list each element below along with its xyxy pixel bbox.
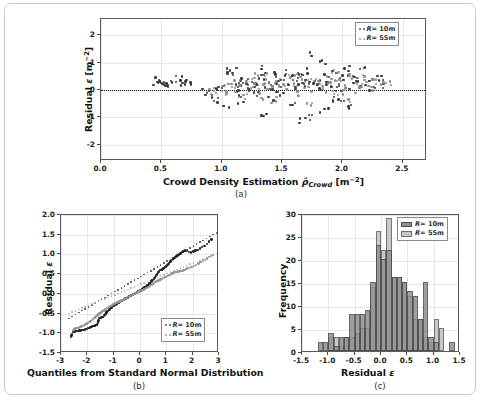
qq-point-r10 bbox=[97, 319, 99, 321]
qq-reference-line-r55 bbox=[143, 282, 145, 284]
y-tick-label: 0.0 bbox=[42, 288, 55, 297]
x-tick-label: -3 bbox=[56, 356, 64, 365]
scatter-point-r10 bbox=[277, 91, 279, 93]
y-tick-label: 1.5 bbox=[42, 229, 55, 238]
scatter-point-r10 bbox=[350, 104, 352, 106]
scatter-point-r55 bbox=[330, 78, 332, 80]
scatter-point-r55 bbox=[233, 79, 235, 81]
scatter-point-r10 bbox=[304, 117, 306, 119]
panel-a-legend-label-r55: = 55m bbox=[371, 34, 395, 44]
scatter-point-r55 bbox=[257, 74, 259, 76]
x-tick-mark bbox=[459, 352, 460, 355]
x-tick-label: -1 bbox=[109, 356, 117, 365]
scatter-point-r10 bbox=[343, 67, 345, 69]
scatter-point-r10 bbox=[242, 82, 244, 84]
qq-point-r10 bbox=[203, 245, 205, 247]
y-tick-label: 2 bbox=[90, 30, 95, 39]
panel-a-legend-item-r10: R = 10m bbox=[359, 25, 395, 35]
scatter-point-r10 bbox=[337, 98, 339, 100]
scatter-point-r55 bbox=[284, 85, 286, 87]
x-tick-label: 1.5 bbox=[452, 356, 465, 365]
scatter-point-r55 bbox=[310, 78, 312, 80]
scatter-point-r10 bbox=[217, 97, 219, 99]
scatter-point-r10 bbox=[342, 79, 344, 81]
scatter-point-r55 bbox=[254, 72, 256, 74]
gridline-horizontal bbox=[101, 63, 425, 64]
histogram-bar-r55 bbox=[439, 328, 444, 351]
qq-reference-line-r10 bbox=[206, 238, 208, 240]
qq-reference-line-r10 bbox=[209, 236, 211, 238]
scatter-point-r55 bbox=[333, 93, 335, 95]
y-tick-mark bbox=[57, 352, 60, 353]
panel-a-caption: (a) bbox=[235, 189, 247, 199]
scatter-point-r10 bbox=[235, 67, 237, 69]
scatter-point-r55 bbox=[268, 81, 270, 83]
scatter-point-r10 bbox=[258, 77, 260, 79]
gridline-horizontal bbox=[61, 235, 217, 236]
scatter-point-r55 bbox=[326, 75, 328, 77]
gridline-vertical bbox=[282, 19, 283, 159]
scatter-point-r10 bbox=[261, 65, 263, 67]
scatter-point-r10 bbox=[359, 68, 361, 70]
scatter-point-r10 bbox=[213, 100, 215, 102]
x-tick-mark bbox=[406, 352, 407, 355]
scatter-point-r55 bbox=[245, 80, 247, 82]
scatter-point-r55 bbox=[310, 104, 312, 106]
scatter-point-r55 bbox=[275, 100, 277, 102]
scatter-point-r55 bbox=[338, 78, 340, 80]
x-tick-mark bbox=[100, 160, 101, 163]
qq-reference-line-r55 bbox=[121, 291, 123, 293]
scatter-point-r10 bbox=[348, 65, 350, 67]
scatter-point-r10 bbox=[201, 88, 203, 90]
scatter-point-r10 bbox=[311, 114, 313, 116]
scatter-point-r10 bbox=[298, 122, 300, 124]
y-tick-mark bbox=[57, 313, 60, 314]
scatter-point-r10 bbox=[175, 81, 177, 83]
qq-point-r10 bbox=[210, 238, 212, 240]
scatter-point-r10 bbox=[355, 80, 357, 82]
y-tick-label: 1 bbox=[90, 57, 95, 66]
qq-reference-line-r55 bbox=[180, 267, 182, 269]
panel-b-qqplot: Residual ε Quantiles from Standard Norma… bbox=[5, 200, 245, 396]
scatter-point-r55 bbox=[215, 92, 217, 94]
y-tick-mark bbox=[298, 283, 301, 284]
qq-reference-line-r10 bbox=[140, 276, 142, 278]
qq-reference-line-r10 bbox=[127, 283, 129, 285]
scatter-point-r10 bbox=[364, 66, 366, 68]
qq-reference-line-r10 bbox=[216, 232, 218, 234]
panel-a-x-title-text: Crowd Density Estimation bbox=[163, 176, 299, 187]
scatter-point-r10 bbox=[324, 63, 326, 65]
qq-reference-line-r55 bbox=[75, 310, 77, 312]
x-tick-mark bbox=[160, 160, 161, 163]
scatter-point-r55 bbox=[242, 94, 244, 96]
panel-c-legend-label-r10: = 10m bbox=[420, 220, 444, 230]
scatter-point-r55 bbox=[370, 86, 372, 88]
panel-b-legend-item-r55: R = 55m bbox=[165, 330, 201, 340]
scatter-point-r10 bbox=[240, 77, 242, 79]
x-tick-mark bbox=[139, 352, 140, 355]
scatter-point-r55 bbox=[275, 80, 277, 82]
scatter-point-r55 bbox=[246, 93, 248, 95]
scatter-point-r10 bbox=[275, 76, 277, 78]
scatter-point-r10 bbox=[296, 80, 298, 82]
x-tick-mark bbox=[433, 352, 434, 355]
y-tick-mark bbox=[298, 352, 301, 353]
qq-reference-line-r55 bbox=[78, 309, 80, 311]
qq-reference-line-r55 bbox=[186, 265, 188, 267]
scatter-point-r10 bbox=[216, 101, 218, 103]
scatter-point-r10 bbox=[335, 90, 337, 92]
x-tick-mark bbox=[341, 160, 342, 163]
panel-a-x-axis-title: Crowd Density Estimation ρ̂Crowd [m−2] bbox=[163, 176, 364, 189]
qq-reference-line-r55 bbox=[101, 299, 103, 301]
qq-reference-line-r10 bbox=[81, 310, 83, 312]
scatter-point-r55 bbox=[224, 84, 226, 86]
x-tick-label: -2 bbox=[82, 356, 90, 365]
gridline-horizontal bbox=[61, 294, 217, 295]
scatter-point-r55 bbox=[337, 71, 339, 73]
scatter-point-r10 bbox=[333, 96, 335, 98]
qq-reference-line-r10 bbox=[71, 316, 73, 318]
qq-reference-line-r55 bbox=[114, 294, 116, 296]
qq-reference-line-r10 bbox=[199, 241, 201, 243]
x-tick-mark bbox=[354, 352, 355, 355]
zero-reference-line bbox=[101, 90, 425, 91]
